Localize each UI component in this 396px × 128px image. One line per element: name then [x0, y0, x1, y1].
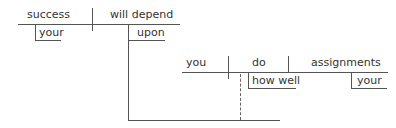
adverb-modifier: how well — [252, 75, 300, 87]
subject-verb-divider — [92, 8, 93, 31]
object-modifier: your — [357, 75, 382, 87]
clause-object: assignments — [311, 57, 381, 69]
clause-verb: do — [252, 57, 266, 69]
clause-baseline — [182, 72, 388, 73]
subject-modifier-line — [35, 40, 61, 41]
clause-verb-object-divider — [288, 56, 289, 72]
main-baseline — [18, 24, 180, 25]
adverb-line — [248, 88, 296, 89]
object-of-preposition-line — [128, 120, 280, 121]
clause-pedestal — [240, 74, 241, 120]
main-subject: success — [27, 9, 70, 21]
object-modifier-slant — [351, 73, 352, 88]
adverb-slant — [248, 73, 249, 88]
clause-subject: you — [186, 57, 206, 69]
clause-subject-verb-divider — [228, 56, 229, 79]
preposition-line — [128, 40, 165, 41]
subject-modifier-slant — [35, 25, 36, 40]
main-verb: will depend — [110, 9, 173, 21]
subject-modifier: your — [39, 27, 64, 39]
preposition: upon — [137, 27, 165, 39]
object-modifier-line — [351, 88, 387, 89]
